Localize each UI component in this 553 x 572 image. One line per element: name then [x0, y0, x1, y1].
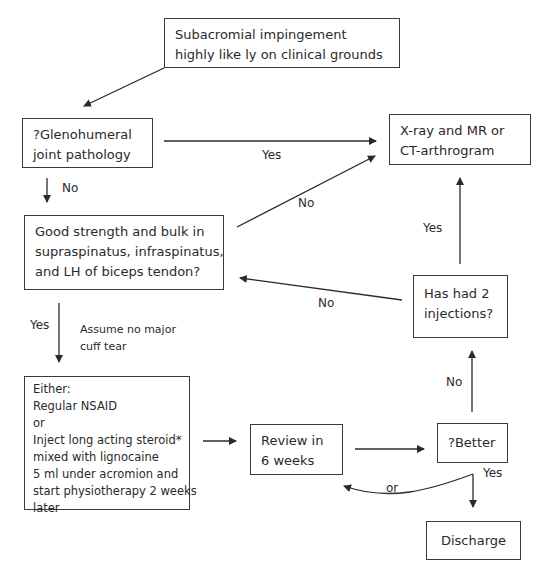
node-review-line: Review in — [261, 431, 332, 451]
label-assume-line: cuff tear — [80, 340, 126, 353]
label-better-yes: Yes — [483, 466, 502, 480]
label-glenohumeral-no: No — [62, 181, 78, 195]
arrow-start-to-glenohumeral — [84, 68, 164, 106]
node-better-line: ?Better — [448, 433, 497, 453]
node-treatment-line: or — [33, 415, 181, 432]
node-imaging-line: CT-arthrogram — [400, 141, 520, 161]
label-strength-no: No — [298, 196, 314, 210]
node-strength-line: and LH of biceps tendon? — [35, 262, 213, 282]
node-discharge-line: Discharge — [437, 531, 510, 551]
node-start-line: highly like ly on clinical grounds — [175, 45, 389, 65]
node-treatment-line: mixed with lignocaine — [33, 449, 181, 466]
node-treatment-line: Inject long acting steroid* — [33, 432, 181, 449]
node-treatment-line: 5 ml under acromion and — [33, 466, 181, 483]
node-treatment-line: Regular NSAID — [33, 398, 181, 415]
node-injections: Has had 2 injections? — [413, 275, 508, 338]
node-strength: Good strength and bulk in supraspinatus,… — [24, 215, 224, 290]
node-injections-line: Has had 2 — [424, 284, 497, 304]
node-start: Subacromial impingement highly like ly o… — [164, 18, 400, 68]
node-discharge: Discharge — [426, 521, 521, 560]
node-strength-line: supraspinatus, infraspinatus, — [35, 242, 213, 262]
node-glenohumeral: ?Glenohumeral joint pathology — [22, 118, 153, 168]
node-glenohumeral-line: ?Glenohumeral — [33, 125, 142, 145]
node-imaging: X-ray and MR or CT-arthrogram — [389, 114, 531, 165]
label-injections-no: No — [318, 296, 334, 310]
node-injections-line: injections? — [424, 304, 497, 324]
node-imaging-line: X-ray and MR or — [400, 121, 520, 141]
node-better: ?Better — [437, 423, 508, 463]
label-better-no: No — [446, 375, 462, 389]
node-treatment-line: later — [33, 500, 181, 517]
arrow-better-or-review — [344, 474, 473, 494]
label-assume-line: Assume no major — [80, 323, 176, 336]
node-glenohumeral-line: joint pathology — [33, 145, 142, 165]
node-treatment-line: start physiotherapy 2 weeks — [33, 483, 181, 500]
node-treatment-line: Either: — [33, 381, 181, 398]
node-review-line: 6 weeks — [261, 451, 332, 471]
arrow-strength-no — [237, 156, 375, 227]
node-strength-line: Good strength and bulk in — [35, 222, 213, 242]
node-review: Review in 6 weeks — [250, 424, 343, 475]
label-better-or: or — [386, 481, 398, 495]
label-injections-yes: Yes — [423, 221, 442, 235]
node-treatment: Either: Regular NSAID or Inject long act… — [24, 376, 190, 510]
label-glenohumeral-yes: Yes — [262, 148, 281, 162]
node-start-line: Subacromial impingement — [175, 25, 389, 45]
label-strength-yes: Yes — [30, 318, 49, 332]
